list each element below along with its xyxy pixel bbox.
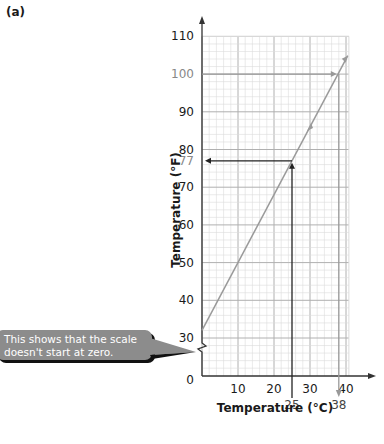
tick-labels: 10203040030405060708090100110: [171, 29, 354, 396]
svg-text:40: 40: [338, 382, 353, 396]
svg-text:30: 30: [302, 382, 317, 396]
svg-text:90: 90: [179, 105, 194, 119]
svg-text:20: 20: [266, 382, 281, 396]
svg-text:10: 10: [230, 382, 245, 396]
svg-text:100: 100: [171, 67, 194, 81]
svg-text:30: 30: [179, 331, 194, 345]
callout-line-2: doesn't start at zero.: [4, 346, 152, 359]
callout-line-1: This shows that the scale: [4, 333, 152, 346]
svg-text:40: 40: [179, 293, 194, 307]
grid: [202, 36, 349, 376]
y-axis-label: Temperature (°F): [169, 152, 183, 268]
x-axis-label: Temperature (°C): [217, 401, 333, 415]
svg-text:38: 38: [331, 398, 346, 412]
svg-text:0: 0: [186, 373, 194, 387]
svg-text:110: 110: [171, 29, 194, 43]
scale-break-callout: This shows that the scale doesn't start …: [0, 330, 152, 360]
conversion-chart: 10203040030405060708090100110 772538 Tem…: [0, 0, 384, 444]
